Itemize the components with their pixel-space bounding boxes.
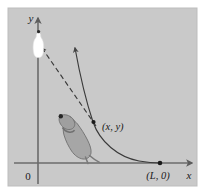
curve-point-marker <box>91 120 95 124</box>
x-intercept-marker <box>158 161 163 166</box>
x-intercept-label: (L, 0) <box>146 170 170 182</box>
y-axis-label: y <box>28 12 34 24</box>
figure-canvas: y x 0 (x, y) (L, 0) <box>0 0 205 193</box>
target-head-dot <box>37 30 40 33</box>
curve-point-label: (x, y) <box>102 121 124 133</box>
pursuit-curve-figure: y x 0 (x, y) (L, 0) <box>0 0 205 193</box>
x-axis-label: x <box>186 169 192 181</box>
dog-nose-dot <box>59 114 63 118</box>
origin-label: 0 <box>25 170 31 182</box>
